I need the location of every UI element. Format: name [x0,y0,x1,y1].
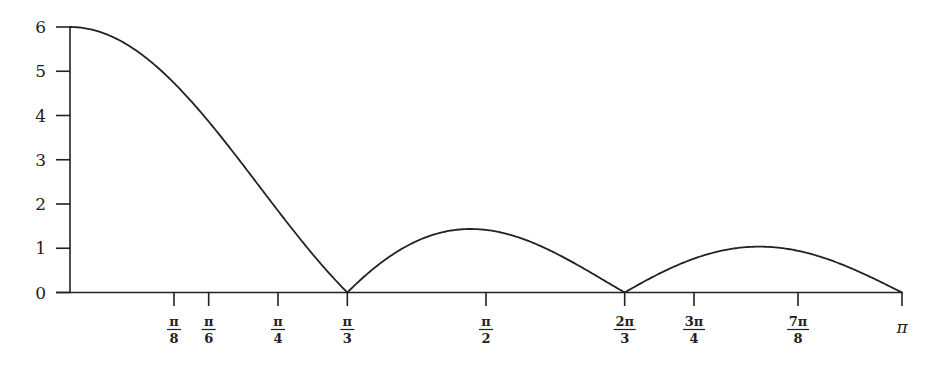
x-tick-label: π [895,317,908,337]
y-tick-label: 1 [35,238,46,258]
x-tick-numerator: 7π [789,314,808,329]
x-axis: π8π6π4π3π22π33π47π8π [56,293,908,347]
x-tick-numerator: π [481,314,491,329]
y-tick-label: 3 [35,150,46,170]
y-tick-label: 2 [35,194,46,214]
x-tick-denominator: 3 [620,331,629,346]
x-tick-numerator: π [273,314,283,329]
x-tick-denominator: 4 [689,331,698,346]
x-tick-numerator: 2π [615,314,634,329]
y-tick-label: 4 [35,106,46,126]
x-tick-denominator: 2 [481,331,490,346]
y-axis: 0123456 [35,17,70,303]
x-tick-denominator: 3 [343,331,352,346]
x-tick-numerator: 3π [685,314,704,329]
x-tick-denominator: 8 [169,331,178,346]
data-curve [70,27,902,293]
x-tick-numerator: π [343,314,353,329]
x-tick-denominator: 4 [273,331,282,346]
y-tick-label: 6 [35,17,46,37]
y-tick-label: 0 [35,283,46,303]
x-tick-denominator: 8 [793,331,802,346]
y-ticks: 0123456 [35,17,70,303]
x-tick-numerator: π [204,314,214,329]
line-chart: 0123456 π8π6π4π3π22π33π47π8π [0,0,931,366]
y-tick-label: 5 [35,61,46,81]
x-tick-denominator: 6 [204,331,213,346]
x-tick-numerator: π [169,314,179,329]
x-ticks: π8π6π4π3π22π33π47π8π [167,293,908,347]
